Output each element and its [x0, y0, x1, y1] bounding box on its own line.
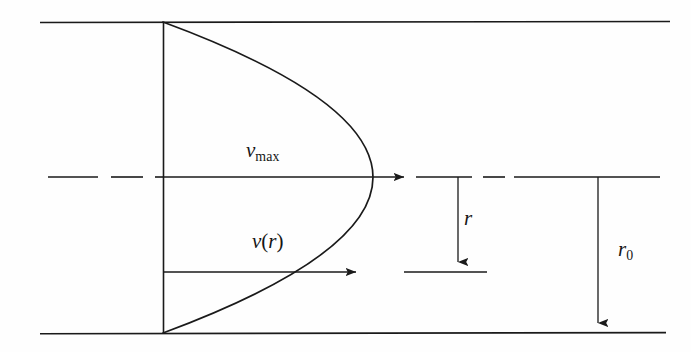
label-radius-r0-symbol: r	[618, 237, 626, 261]
pipe-velocity-profile-figure: vmax v(r) r r0	[0, 0, 691, 352]
figure-canvas	[0, 0, 691, 352]
label-v-of-r-close-paren: )	[277, 229, 284, 253]
label-v-of-r: v(r)	[252, 231, 284, 252]
label-radius-r0: r0	[618, 239, 633, 263]
label-v-of-r-argument: r	[268, 229, 276, 253]
label-radius-r0-subscript: 0	[626, 248, 633, 263]
label-v-max: vmax	[246, 140, 280, 164]
label-v-max-subscript: max	[255, 149, 279, 164]
pipe-wall-bottom-line	[40, 333, 666, 334]
label-radius-r: r	[464, 208, 472, 229]
label-radius-r-symbol: r	[464, 206, 472, 230]
pipe-wall-top-line	[40, 22, 670, 23]
label-v-max-symbol: v	[246, 138, 255, 162]
label-v-of-r-symbol: v	[252, 229, 261, 253]
